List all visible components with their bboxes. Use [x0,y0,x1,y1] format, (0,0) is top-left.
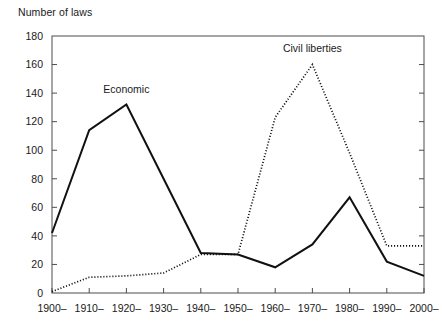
x-tick-label: 1950– [223,302,252,314]
y-tick-label: 180 [25,30,43,42]
y-tick-label: 80 [31,173,43,185]
series-annotations: EconomicCivil liberties [103,42,342,95]
line-chart-svg: 020406080100120140160180 EconomicCivil l… [0,0,442,322]
x-tick-label: 1940– [186,302,215,314]
y-tick-label: 160 [25,58,43,70]
y-tick-label: 40 [31,230,43,242]
y-tick-label: 60 [31,201,43,213]
x-tick-label: 2000– [409,302,438,314]
y-tick-label: 0 [37,287,43,299]
x-tick-label: 1990– [372,302,401,314]
x-tick-label: 1920– [112,302,141,314]
y-tick-label: 100 [25,144,43,156]
data-series-group [52,65,424,292]
y-tick-label: 140 [25,87,43,99]
series-label: Economic [103,83,149,95]
series-line-civil-liberties [52,65,424,292]
x-tick-label: 1900– [37,302,66,314]
x-tick-label: 1980– [335,302,364,314]
y-tick-label: 20 [31,258,43,270]
x-tick-label: 1910– [75,302,104,314]
chart-container: Number of laws 020406080100120140160180 … [0,0,442,322]
x-tick-label: 1960– [261,302,290,314]
series-line-economic [52,105,424,276]
y-axis-ticks: 020406080100120140160180 [25,30,424,299]
x-tick-label: 1930– [149,302,178,314]
x-tick-label: 1970– [298,302,327,314]
series-label: Civil liberties [283,42,342,54]
x-axis-ticks [52,288,424,293]
x-axis-labels: 1900–1910–1920–1930–1940–1950–1960–1970–… [37,302,438,314]
y-tick-label: 120 [25,115,43,127]
